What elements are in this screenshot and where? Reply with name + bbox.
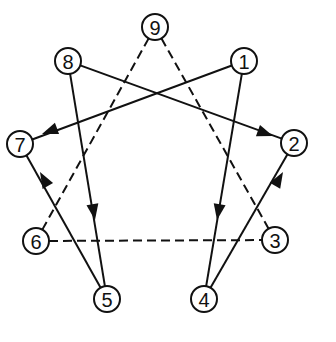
node-label: 6 [30,231,41,253]
node-label: 1 [238,51,249,73]
node-7: 7 [7,131,33,157]
arrowheads-layer [40,123,283,220]
arrowhead-icon [86,203,98,220]
node-4: 4 [191,286,217,312]
solid-edge-8-to-2 [80,65,282,138]
enneagram-diagram: 123456789 [0,0,336,342]
node-8: 8 [55,48,81,74]
node-1: 1 [231,48,257,74]
node-3: 3 [262,227,288,253]
arrowhead-icon [40,172,53,189]
arrowhead-icon [256,125,273,136]
solid-edge-8-to-5 [70,74,105,286]
node-label: 2 [288,133,299,155]
dashed-edge-6-3 [49,240,262,241]
solid-edge-1-to-7 [32,66,232,140]
node-6: 6 [23,228,49,254]
arrowhead-icon [214,203,226,220]
node-label: 4 [198,289,209,311]
node-label: 7 [14,134,25,156]
arrowhead-icon [42,123,59,134]
node-2: 2 [281,130,307,156]
solid-edge-4-to-2 [210,154,287,287]
solid-edge-1-to-4 [206,74,242,286]
node-label: 3 [269,230,280,252]
node-label: 9 [149,17,160,39]
nodes-layer: 123456789 [7,14,307,312]
solid-edge-5-to-7 [26,155,100,287]
node-9: 9 [142,14,168,40]
node-label: 8 [62,51,73,73]
edges-layer [26,38,287,287]
node-5: 5 [94,286,120,312]
node-label: 5 [101,289,112,311]
